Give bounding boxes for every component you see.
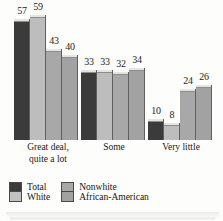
bar-cap <box>196 85 211 88</box>
category-label-line2: quite a lot <box>8 154 88 166</box>
bar-slot: 33 <box>81 0 97 140</box>
bar-value-label: 26 <box>199 71 209 82</box>
bar-cap <box>97 70 112 73</box>
legend-label-stack: Nonwhite African-American <box>79 182 149 203</box>
bar-value-label: 40 <box>65 41 75 52</box>
legend-swatch-white <box>10 192 21 201</box>
legend-swatch-african-american <box>62 192 73 201</box>
bar-cap <box>164 123 179 126</box>
category-label-some: Some <box>78 142 150 154</box>
legend-column-right: Nonwhite African-American <box>61 182 149 203</box>
bar-group-some: 33 33 32 34 <box>81 0 145 140</box>
legend-swatch-total <box>10 183 21 192</box>
legend-label-white: White <box>27 192 50 203</box>
legend-label-nonwhite: Nonwhite <box>79 182 149 193</box>
bar-slot: 34 <box>129 0 145 140</box>
bar-value-label: 43 <box>49 35 59 46</box>
bar-slot: 26 <box>196 0 212 140</box>
bar-value-label: 10 <box>151 105 161 116</box>
category-label-very-little: Very little <box>145 142 217 154</box>
bar-white <box>164 123 180 140</box>
category-axis-labels: Great deal, quite a lot Some Very little <box>0 142 223 174</box>
bar-slot: 32 <box>113 0 129 140</box>
bar-value-label: 57 <box>17 5 27 16</box>
bar-cap <box>113 72 128 75</box>
plot-area: 57 59 43 40 <box>0 0 223 140</box>
category-label-line1: Great deal, <box>8 142 88 154</box>
legend-swatch-stack <box>61 182 74 202</box>
bar-white <box>30 15 46 140</box>
bar-group-very-little: 10 8 24 26 <box>148 0 212 140</box>
legend-swatch-stack <box>9 182 22 202</box>
bar-cap <box>46 49 61 52</box>
bar-white <box>97 70 113 140</box>
bar-chart-figure: 57 59 43 40 <box>0 0 223 221</box>
bar-nonwhite <box>180 89 196 140</box>
bar-slot: 57 <box>14 0 30 140</box>
bar-slot: 24 <box>180 0 196 140</box>
bar-value-label: 24 <box>183 75 193 86</box>
bar-value-label: 34 <box>132 54 142 65</box>
bar-value-label: 33 <box>84 56 94 67</box>
bar-african-american <box>129 68 145 140</box>
bar-african-american <box>62 55 78 140</box>
bar-value-label: 32 <box>116 58 126 69</box>
bar-cap <box>62 55 77 58</box>
legend-swatch-nonwhite <box>62 183 73 192</box>
bar-total <box>14 19 30 140</box>
bar-value-label: 33 <box>100 56 110 67</box>
category-label-line1: Some <box>78 142 150 154</box>
bar-slot: 43 <box>46 0 62 140</box>
bar-slot: 59 <box>30 0 46 140</box>
bar-cap <box>148 119 163 122</box>
page-shadow-edge <box>10 217 215 220</box>
bar-slot: 10 <box>148 0 164 140</box>
legend-label-total: Total <box>27 182 50 193</box>
bar-cap <box>14 19 29 22</box>
bar-cap <box>180 89 195 92</box>
bar-group-great-deal: 57 59 43 40 <box>14 0 78 140</box>
category-label-line1: Very little <box>145 142 217 154</box>
legend-column-left: Total White <box>9 182 50 203</box>
bar-cap <box>30 15 45 18</box>
legend-label-african-american: African-American <box>79 192 149 203</box>
bar-slot: 40 <box>62 0 78 140</box>
bar-nonwhite <box>46 49 62 140</box>
bar-african-american <box>196 85 212 140</box>
bar-total <box>148 119 164 140</box>
bar-cap <box>129 68 144 71</box>
bar-total <box>81 70 97 140</box>
legend-label-stack: Total White <box>27 182 50 203</box>
category-label-great-deal: Great deal, quite a lot <box>8 142 88 165</box>
bar-nonwhite <box>113 72 129 140</box>
bar-value-label: 59 <box>33 1 43 12</box>
bar-value-label: 8 <box>170 109 175 120</box>
bar-slot: 33 <box>97 0 113 140</box>
bar-cap <box>81 70 96 73</box>
bar-slot: 8 <box>164 0 180 140</box>
chart-legend: Total White Nonwhite African-American <box>9 176 199 208</box>
